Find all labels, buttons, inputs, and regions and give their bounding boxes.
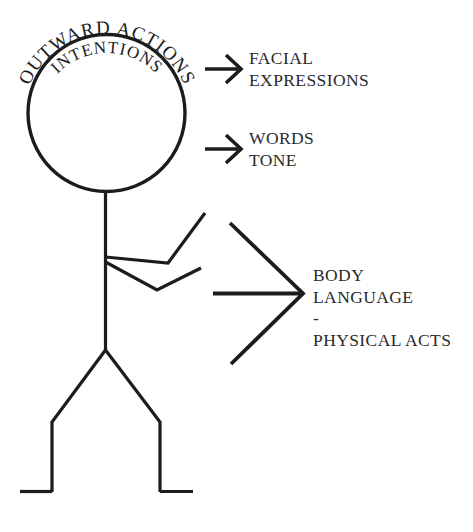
arrow-body-language: [213, 223, 303, 364]
arrow-facial-expressions: [205, 55, 241, 83]
lower-arm-line: [106, 262, 202, 290]
upper-arm-line: [106, 213, 206, 263]
label-facial-expressions: FACIAL EXPRESSIONS: [249, 48, 369, 91]
right-leg-line: [106, 350, 161, 492]
label-body-language-physical-acts: BODY LANGUAGE - PHYSICAL ACTS: [313, 265, 451, 351]
label-words-tone: WORDS TONE: [249, 128, 314, 171]
left-leg-line: [52, 350, 106, 492]
diagram-canvas: OUTWARD ACTIONS INTENTIONS: [0, 0, 473, 532]
arrow-words-tone: [205, 135, 241, 163]
